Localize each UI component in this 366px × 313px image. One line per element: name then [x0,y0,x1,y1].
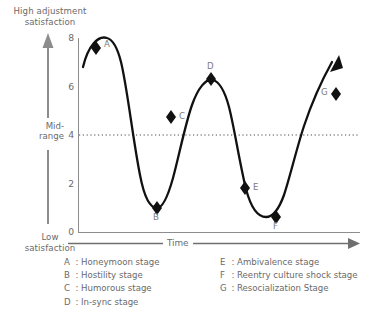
marker-c [166,110,176,124]
legend-sep-c: : [73,282,81,295]
ytick-6: 6 [60,82,74,92]
marker-e [240,181,250,195]
legend-text-a: Honeymoon stage [81,256,202,269]
legend-key-d: D [64,296,73,309]
legend-text-d: In-sync stage [81,296,202,309]
legend-key-e: E [220,256,229,269]
legend-item-f: F : Reentry culture shock stage [220,269,358,282]
x-axis-label: Time [163,238,193,248]
legend: A : Honeymoon stage B : Hostility stage … [64,256,364,309]
ytick-8: 8 [60,33,74,43]
legend-text-f: Reentry culture shock stage [237,269,358,282]
legend-sep-e: : [229,256,237,269]
point-label-e: E [253,183,258,192]
legend-text-g: Resocialization Stage [237,282,358,295]
legend-sep-f: : [229,269,237,282]
point-label-g: G [321,88,328,97]
point-label-a: A [104,40,110,49]
y-axis-top-title-line1: High adjustment [2,6,98,17]
legend-item-a: A : Honeymoon stage [64,256,202,269]
legend-item-e: E : Ambivalence stage [220,256,358,269]
legend-key-a: A [64,256,73,269]
legend-item-c: C : Humorous stage [64,282,202,295]
y-axis-bottom-title-line2: satisfaction [0,243,100,254]
stage-markers [91,41,341,224]
marker-d [206,72,216,86]
y-axis-top-title: High adjustment satisfaction [2,6,98,28]
y-axis-bottom-title-line1: Low [0,232,100,243]
legend-sep-a: : [73,256,81,269]
mid-range-label: Mid- range [20,122,64,141]
legend-sep-b: : [73,269,81,282]
legend-key-b: B [64,269,73,282]
time-axis-arrow [68,238,360,249]
marker-g [331,87,341,101]
legend-sep-g: : [229,282,237,295]
point-label-f: F [273,222,278,231]
legend-key-f: F [220,269,229,282]
y-axis-bottom-title: Low satisfaction [0,232,100,254]
legend-item-b: B : Hostility stage [64,269,202,282]
legend-column-left: A : Honeymoon stage B : Hostility stage … [64,256,202,309]
legend-text-b: Hostility stage [81,269,202,282]
point-label-d: D [207,62,214,71]
legend-column-right: E : Ambivalence stage F : Reentry cultur… [220,256,358,309]
legend-item-g: G : Resocialization Stage [220,282,358,295]
legend-text-c: Humorous stage [81,282,202,295]
legend-item-d: D : In-sync stage [64,296,202,309]
mid-range-label-line2: range [20,132,64,142]
point-label-c: C [179,112,185,121]
legend-sep-d: : [73,296,81,309]
chart-figure: 8 6 4 2 0 High adjustment satisfaction M… [0,0,366,313]
legend-key-g: G [220,282,229,295]
y-axis-up-arrow [43,33,54,118]
y-axis-top-title-line2: satisfaction [2,17,98,28]
point-label-b: B [153,213,159,222]
legend-key-c: C [64,282,73,295]
ytick-2: 2 [60,179,74,189]
legend-text-e: Ambivalence stage [237,256,358,269]
